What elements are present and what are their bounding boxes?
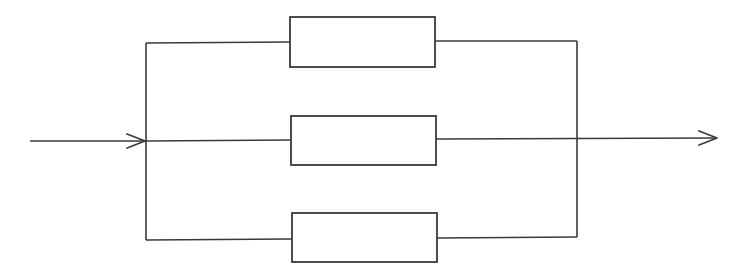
- input-arrow: [30, 134, 146, 148]
- branch-middle: [146, 116, 716, 165]
- block-middle: [291, 116, 436, 165]
- branch-bottom: [146, 213, 577, 262]
- block-top: [290, 17, 435, 67]
- output-line: [436, 138, 716, 139]
- block-bottom: [292, 213, 437, 262]
- branch-middle-in-line: [146, 140, 291, 141]
- parallel-diagram: [0, 0, 742, 279]
- branch-bottom-in-line: [146, 239, 292, 240]
- branch-bottom-out-line: [437, 237, 577, 238]
- branch-top: [146, 17, 577, 67]
- branch-top-in-line: [146, 42, 290, 43]
